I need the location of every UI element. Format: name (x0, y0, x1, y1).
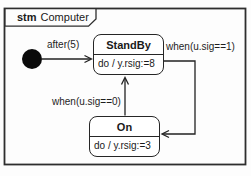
state-on: On do / y.rsig:=3 (89, 116, 160, 157)
frame-tab-label: stmComputer (17, 11, 89, 24)
initial-state-node (22, 49, 42, 69)
transition-label-after: after(5) (47, 39, 79, 51)
state-machine-diagram: stmComputer after(5) when(u.sig==1) when… (0, 0, 251, 176)
transition-label-when-sig-1: when(u.sig==1) (166, 41, 235, 53)
state-standby-title: StandBy (94, 35, 163, 55)
state-on-activity: do / y.rsig:=3 (90, 137, 159, 152)
transition-label-when-sig-0: when(u.sig==0) (52, 96, 121, 108)
state-on-title: On (90, 117, 159, 137)
standby-to-on-transition-line (163, 61, 195, 134)
state-standby: StandBy do / y.rsig:=8 (93, 34, 164, 75)
frame-keyword: stm (17, 11, 37, 23)
state-standby-activity: do / y.rsig:=8 (94, 55, 163, 70)
frame-title: Computer (41, 11, 89, 23)
